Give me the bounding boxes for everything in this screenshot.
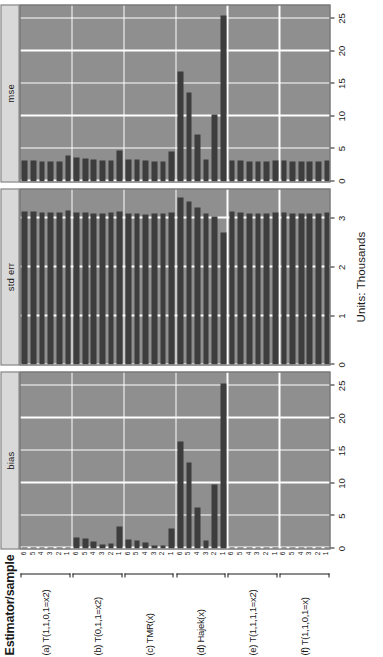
- axis-tickmark: [330, 514, 334, 515]
- axis-ticklabel: 10: [335, 478, 346, 489]
- sample-tick-label: 3: [150, 551, 157, 555]
- estimator-group: (c) TMR(x)654321: [123, 549, 175, 657]
- axis-ticklabel: 25: [335, 380, 346, 391]
- bar: [306, 547, 312, 548]
- gridline-horizontal: [123, 5, 125, 181]
- estimator-group: (e) T(1,1,1,1=x2)654321: [226, 549, 278, 657]
- bar: [47, 547, 53, 548]
- bar: [151, 213, 157, 364]
- gridline-horizontal: [226, 372, 228, 548]
- bar: [203, 213, 209, 364]
- bar: [134, 540, 140, 548]
- estimator-label: (b) T(0,1,1=x2): [91, 597, 102, 655]
- bar: [65, 155, 71, 180]
- sample-tick-list: 654321: [123, 551, 175, 573]
- axis-tickmark: [330, 449, 334, 450]
- bar: [47, 161, 53, 181]
- panel-strip-label: bias: [0, 371, 19, 549]
- estimator-group-bracket-cap: [72, 573, 73, 577]
- bar: [220, 383, 226, 548]
- axis-ticklabel: 20: [335, 413, 346, 424]
- sample-tick-list: 654321: [175, 551, 227, 573]
- bar: [82, 538, 88, 548]
- estimator-group-bracket: [227, 573, 277, 574]
- bar: [324, 547, 330, 548]
- sample-tick-label: 2: [158, 551, 165, 555]
- bar: [116, 150, 122, 181]
- sample-tick-label: 1: [271, 551, 278, 555]
- gridline-horizontal: [278, 189, 280, 365]
- bar: [168, 528, 174, 548]
- bar: [82, 212, 88, 364]
- estimator-label: (e) T(1,1,1,1=x2): [246, 589, 257, 655]
- bar: [263, 547, 269, 548]
- estimator-group-bracket-cap: [276, 573, 277, 577]
- sample-tick-list: 654321: [19, 551, 71, 573]
- sample-tick-label: 1: [219, 551, 226, 555]
- sample-tick-label: 4: [37, 551, 44, 555]
- sample-tick-label: 5: [236, 551, 243, 555]
- bar: [125, 159, 131, 181]
- units-caption: Units: Thousands: [354, 4, 366, 549]
- bar: [229, 547, 235, 548]
- estimator-group-bracket-cap: [69, 573, 70, 577]
- bar: [177, 197, 183, 364]
- bar: [237, 212, 243, 364]
- bar: [186, 462, 192, 548]
- sample-tick-label: 6: [279, 551, 286, 555]
- estimator-group-bracket-cap: [124, 573, 125, 577]
- sample-tick-label: 6: [227, 551, 234, 555]
- sample-tick-label: 5: [81, 551, 88, 555]
- sample-tick-label: 3: [202, 551, 209, 555]
- sample-tick-list: 654321: [71, 551, 123, 573]
- estimator-label: (d) Hajek(x): [194, 609, 205, 655]
- bar: [73, 537, 79, 548]
- panel-mse: mse: [0, 4, 330, 182]
- panel-container: biasstd errmse: [0, 4, 330, 549]
- bar: [116, 211, 122, 364]
- axis-tickmark: [330, 50, 334, 51]
- axis-tickmark: [330, 217, 334, 218]
- bar: [186, 201, 192, 364]
- axis-tickmark: [330, 363, 334, 364]
- bar: [194, 134, 200, 180]
- bar: [289, 547, 295, 548]
- axis-ticklabel: 15: [335, 78, 346, 89]
- bar: [194, 507, 200, 548]
- bar: [315, 213, 321, 365]
- gridline-horizontal: [278, 5, 280, 181]
- axis-ticklabel: 1: [335, 313, 346, 318]
- sample-tick-label: 5: [29, 551, 36, 555]
- bar: [99, 544, 105, 548]
- bar: [306, 213, 312, 364]
- bar: [272, 547, 278, 548]
- bar: [255, 213, 261, 365]
- bar: [298, 547, 304, 548]
- bar: [298, 213, 304, 364]
- bar: [65, 210, 71, 364]
- bar: [21, 547, 27, 548]
- axis-ticklabel: 25: [335, 13, 346, 24]
- bar: [39, 212, 45, 365]
- bar: [263, 161, 269, 181]
- estimator-group-bracket: [20, 573, 70, 574]
- sample-tick-label: 4: [193, 551, 200, 555]
- bar: [56, 212, 62, 364]
- axis-ticklabel: 0: [335, 178, 346, 183]
- sample-tick-list: 654321: [226, 551, 278, 573]
- bar: [142, 214, 148, 365]
- bar: [220, 15, 226, 181]
- bar: [203, 540, 209, 548]
- gridline-horizontal: [175, 372, 177, 548]
- bar: [246, 161, 252, 181]
- bar: [255, 547, 261, 548]
- bar: [90, 542, 96, 549]
- sample-tick-label: 1: [115, 551, 122, 555]
- plot-area: [19, 371, 330, 549]
- bar: [272, 160, 278, 181]
- estimator-group-bracket-cap: [121, 573, 122, 577]
- sample-tick-label: 6: [124, 551, 131, 555]
- bar: [134, 213, 140, 364]
- axis-ticklabel: 2: [335, 264, 346, 269]
- axis-ticklabel: 15: [335, 445, 346, 456]
